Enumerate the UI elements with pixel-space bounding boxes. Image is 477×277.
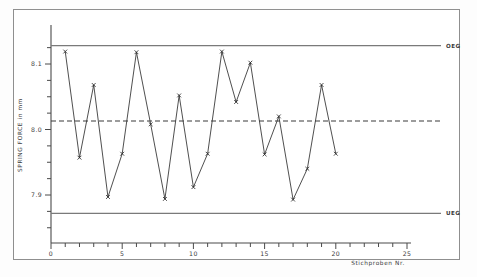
limit-label-oeg: OEG <box>446 43 461 49</box>
reference-lines-group <box>51 46 441 214</box>
x-tick-label: 0 <box>49 250 53 257</box>
x-tick-label: 10 <box>189 250 198 257</box>
x-tick-label: 5 <box>120 250 124 257</box>
y-axis-title: SPRING FORCE in mm <box>17 98 23 172</box>
chart-page: 7.98.08.10510152025 OEGUEG Stichproben N… <box>0 0 477 277</box>
data-polyline <box>65 52 336 200</box>
control-chart: 7.98.08.10510152025 OEGUEG Stichproben N… <box>0 0 477 277</box>
x-axis-title: Stichproben Nr. <box>351 260 405 267</box>
x-tick-label: 25 <box>403 250 412 257</box>
tick-labels-group: 7.98.08.10510152025 <box>31 60 411 257</box>
x-tick-label: 15 <box>260 250 269 257</box>
limit-labels-group: OEGUEG <box>446 43 461 217</box>
x-ticks-group <box>51 243 407 249</box>
y-tick-label: 7.9 <box>31 191 42 198</box>
axes-group <box>51 25 411 243</box>
limit-label-ueg: UEG <box>446 210 460 216</box>
x-tick-label: 20 <box>332 250 341 257</box>
y-tick-label: 8.0 <box>31 126 42 133</box>
data-series-group <box>63 50 337 202</box>
y-ticks-group <box>45 48 51 228</box>
y-tick-label: 8.1 <box>31 60 42 67</box>
